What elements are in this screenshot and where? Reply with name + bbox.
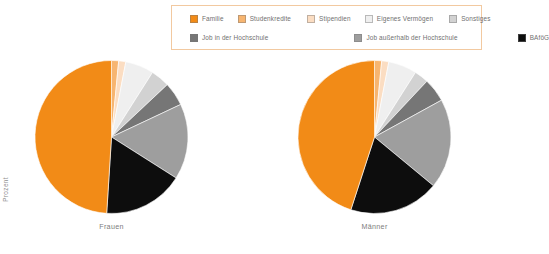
legend-item-stipendien[interactable]: Stipendien [307,15,351,23]
pie-chart-frauen: Frauen [29,58,194,231]
legend-label-sonstiges: Sonstiges [461,15,490,23]
legend-item-bafoeg[interactable]: BAföG [518,34,549,42]
legend-label-bafoeg: BAföG [530,34,549,42]
legend-row-1: FamilieStudenkrediteStipendienEigenes Ve… [178,9,476,28]
legend-swatch-stipendien [307,15,315,23]
legend-item-eigenes-vermoegen[interactable]: Eigenes Vermögen [365,15,433,23]
legend-item-job-ausserhalb-der-hochschule[interactable]: Job außerhalb der Hochschule [354,34,457,42]
legend-label-familie: Familie [202,15,224,23]
legend-label-stipendien: Stipendien [319,15,351,23]
legend-swatch-job-in-der-hochschule [190,34,198,42]
legend-label-job-in-der-hochschule: Job in der Hochschule [202,34,268,42]
legend-swatch-studenkredite [238,15,246,23]
pie-slice-familie[interactable] [35,61,112,214]
legend-swatch-sonstiges [449,15,457,23]
pie-svg-frauen [29,58,194,216]
legend-swatch-bafoeg [518,34,526,42]
pie-caption-maenner: Männer [292,222,457,231]
pie-svg-maenner [292,58,457,216]
pie-chart-maenner: Männer [292,58,457,231]
pie-caption-frauen: Frauen [29,222,194,231]
legend-item-studenkredite[interactable]: Studenkredite [238,15,291,23]
legend-label-job-ausserhalb-der-hochschule: Job außerhalb der Hochschule [366,34,457,42]
legend-item-familie[interactable]: Familie [190,15,224,23]
legend-swatch-job-ausserhalb-der-hochschule [354,34,362,42]
chart-legend: FamilieStudenkrediteStipendienEigenes Ve… [171,5,482,50]
legend-swatch-eigenes-vermoegen [365,15,373,23]
y-axis-label: Prozent [2,177,9,202]
legend-item-sonstiges[interactable]: Sonstiges [449,15,490,23]
legend-row-2: Job in der HochschuleJob außerhalb der H… [178,28,476,47]
legend-label-studenkredite: Studenkredite [250,15,291,23]
plot-area: Prozent Frauen Männer [0,55,487,254]
legend-item-job-in-der-hochschule[interactable]: Job in der Hochschule [190,34,268,42]
legend-swatch-familie [190,15,198,23]
legend-label-eigenes-vermoegen: Eigenes Vermögen [377,15,433,23]
